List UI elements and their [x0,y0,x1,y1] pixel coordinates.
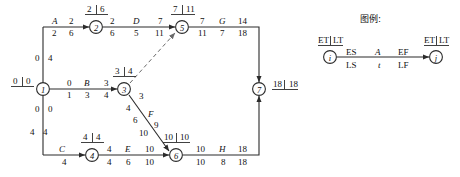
activity-B-LS: 1 [67,91,72,100]
legend-node-i-label: i [325,54,335,63]
node-2-label: 2 [91,24,101,33]
node-4-label: 4 [87,152,97,161]
activity-D-ES: 2 [110,17,115,26]
activity-H-duration: 8 [221,158,226,167]
node-3-ET: 3 [115,67,120,76]
node-4-LT: 4 [96,133,101,142]
activity-C-name: C [59,145,65,154]
node-1-ET: 0 [13,77,18,86]
activity-A-ES: 0 [35,54,40,63]
node-7-ET: 18 [273,80,282,89]
activity-H-LF: 18 [238,158,247,167]
node-7-LT: 18 [289,80,298,89]
legend-ES-label: ES [346,48,357,57]
activity-C-ES: 0 [35,105,40,114]
activity-H-EF: 18 [238,145,247,154]
legend-node-i-LT: LT [333,36,343,45]
legend-duration-label: t [378,61,381,70]
activity-A-EF: 2 [69,17,74,26]
activity-D-LF: 11 [155,29,164,38]
edge-dummy-3-to-5 [130,33,175,83]
activity-G-EF: 14 [238,17,247,26]
node-7-label: 7 [254,86,264,95]
legend-LS-label: LS [346,61,357,70]
activity-F-ES: 3 [139,92,144,101]
activity-G-LS: 11 [198,29,207,38]
activity-C-LS: 0 [48,105,53,114]
diagram-canvas: 1 2 3 4 5 6 7 0 0 2 6 3 4 4 4 7 11 10 10… [0,0,460,177]
activity-F-duration: 6 [133,116,138,125]
activity-A-name: A [52,17,58,26]
activity-D-LS: 6 [110,29,115,38]
node-3-LT: 4 [128,67,133,76]
activity-E-ES: 4 [107,145,112,154]
legend-LF-label: LF [398,61,409,70]
activity-G-LF: 18 [238,29,247,38]
activity-B-EF: 3 [104,79,109,88]
activity-F-EF: 9 [154,121,159,130]
activity-B-name: B [84,79,90,88]
activity-C-duration: 4 [62,158,67,167]
node-5-ET: 7 [173,5,178,14]
node-1-label: 1 [38,86,48,95]
node-6-label: 6 [171,152,181,161]
activity-B-ES: 0 [67,79,72,88]
activity-E-duration: 6 [126,158,131,167]
activity-H-name: H [219,145,226,154]
activity-E-LS: 4 [107,158,112,167]
legend-node-i-ET: ET [318,36,329,45]
activity-E-EF: 10 [145,145,154,154]
activity-F-name: F [148,110,154,119]
activity-B-LF: 4 [104,91,109,100]
network-graph-svg [0,0,460,177]
activity-A-LS: 4 [48,54,53,63]
activity-A-LF: 6 [69,29,74,38]
activity-D-name: D [133,17,140,26]
activity-C-EF: 4 [30,128,35,137]
node-4-ET: 4 [83,133,88,142]
legend-node-j-ET: ET [424,36,435,45]
node-2-LT: 6 [100,5,105,14]
legend-title: 图例: [360,12,381,25]
activity-G-ES: 7 [200,17,205,26]
activity-H-ES: 10 [196,145,205,154]
legend-node-j-label: j [431,54,441,63]
activity-F-LF: 10 [139,129,148,138]
activity-C-LF: 4 [43,128,48,137]
activity-D-EF: 7 [158,17,163,26]
activity-H-LS: 10 [196,158,205,167]
activity-G-name: G [219,17,226,26]
activity-F-LS: 4 [126,104,131,113]
activity-D-duration: 5 [134,29,139,38]
node-6-LT: 10 [180,133,189,142]
node-5-label: 5 [177,24,187,33]
activity-B-duration: 3 [85,91,90,100]
node-2-ET: 2 [87,5,92,14]
legend-EF-label: EF [398,48,409,57]
node-5-LT: 11 [186,5,195,14]
legend-activity-label: A [375,48,381,57]
node-6-ET: 10 [164,133,173,142]
activity-G-duration: 7 [220,29,225,38]
legend-node-j-LT: LT [439,36,449,45]
activity-E-LF: 10 [145,158,154,167]
activity-E-name: E [125,145,131,154]
node-1-LT: 0 [26,77,31,86]
node-3-label: 3 [119,86,129,95]
activity-A-duration: 2 [52,29,57,38]
